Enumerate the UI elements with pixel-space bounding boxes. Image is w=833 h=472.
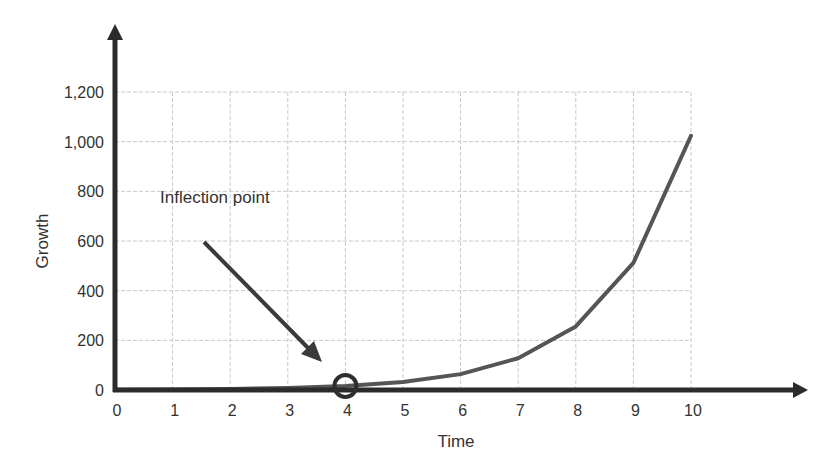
annotation-arrow-line — [204, 242, 312, 352]
x-tick-label: 4 — [343, 402, 352, 419]
x-tick-label: 7 — [516, 402, 525, 419]
x-tick-label: 3 — [285, 402, 294, 419]
y-tick-label: 600 — [77, 233, 104, 250]
grid-lines — [115, 92, 691, 390]
x-tick-label: 0 — [113, 402, 122, 419]
y-tick-labels: 02004006008001,0001,200 — [64, 84, 104, 399]
x-tick-label: 9 — [631, 402, 640, 419]
y-axis-arrow-icon — [107, 24, 123, 40]
x-axis-label: Time — [437, 432, 474, 451]
x-tick-label: 6 — [458, 402, 467, 419]
x-tick-label: 5 — [401, 402, 410, 419]
y-axis-label: Growth — [33, 214, 52, 269]
x-tick-label: 10 — [684, 402, 702, 419]
y-tick-label: 200 — [77, 332, 104, 349]
x-tick-label: 8 — [573, 402, 582, 419]
annotation-text: Inflection point — [160, 188, 270, 207]
x-tick-label: 2 — [228, 402, 237, 419]
axes — [107, 24, 808, 398]
x-axis-arrow-icon — [793, 382, 808, 398]
y-tick-label: 800 — [77, 183, 104, 200]
y-tick-label: 1,000 — [64, 134, 104, 151]
x-tick-label: 1 — [170, 402, 179, 419]
y-tick-label: 1,200 — [64, 84, 104, 101]
growth-chart: 02004006008001,0001,200 012345678910 Tim… — [0, 0, 833, 472]
y-tick-label: 0 — [95, 382, 104, 399]
inflection-annotation: Inflection point — [160, 188, 356, 397]
x-tick-labels: 012345678910 — [113, 402, 702, 419]
y-tick-label: 400 — [77, 283, 104, 300]
